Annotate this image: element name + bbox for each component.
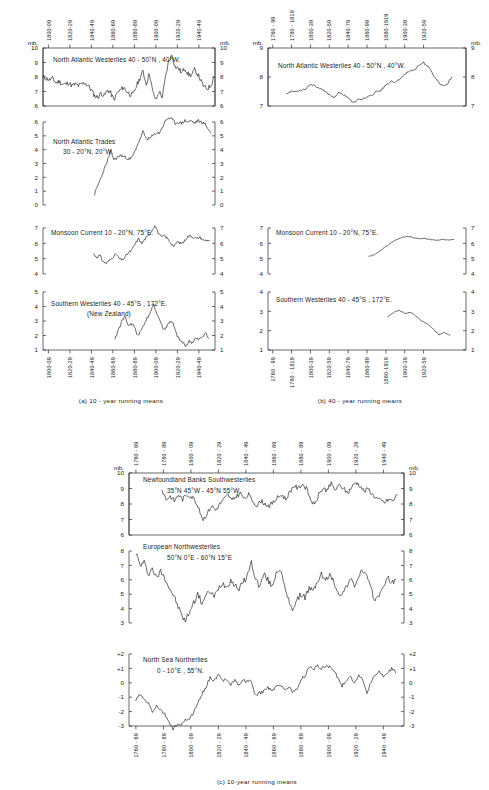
panel-title: Southern Westerlies 40 - 45°S , 172°E. bbox=[276, 296, 392, 303]
data-curve-c2 bbox=[136, 554, 396, 622]
axis-unit-label: mb. bbox=[28, 39, 39, 46]
y-tick-label: 4 bbox=[260, 270, 264, 277]
panel-title: 50°N 0°E - 60°N 15°E bbox=[167, 554, 232, 561]
x-tick-label: 1920 - 29 bbox=[353, 733, 359, 758]
y-tick-label: 0 bbox=[35, 201, 39, 208]
x-tick-label: 1860-99 bbox=[364, 357, 370, 378]
x-tick-label: 1940-49 bbox=[196, 357, 202, 378]
y-tick-label: 1 bbox=[220, 187, 224, 194]
y-tick-label: 7 bbox=[260, 102, 264, 109]
x-tick-label: 1920-59 bbox=[421, 357, 427, 378]
y-tick-label: 3 bbox=[220, 317, 224, 324]
x-tick-label: 1760 - 99 bbox=[270, 357, 276, 382]
axis-unit-label: mb. bbox=[220, 39, 231, 46]
data-curve-b2 bbox=[369, 237, 454, 257]
x-tick-label: 1920-29 bbox=[175, 357, 181, 378]
y-tick-label: 7 bbox=[121, 516, 125, 523]
y-tick-label: 6 bbox=[121, 576, 125, 583]
x-tick-label: 1780 - 89 bbox=[161, 441, 167, 466]
x-tick-label: 1940-49 bbox=[196, 20, 202, 41]
x-tick-label: 1860 - 69 bbox=[271, 441, 277, 466]
y-tick-label: 4 bbox=[220, 270, 224, 277]
y-tick-label: 6 bbox=[220, 118, 224, 125]
x-tick-label: 1780 - 1819 bbox=[289, 10, 295, 41]
y-tick-label: 2 bbox=[220, 332, 224, 339]
y-tick-label: 1 bbox=[220, 346, 224, 353]
y-tick-label: 3 bbox=[409, 619, 413, 626]
y-tick-label: 3 bbox=[121, 619, 125, 626]
x-tick-label: 1840 - 49 bbox=[243, 733, 249, 758]
y-tick-label: 7 bbox=[471, 102, 475, 109]
y-tick-label: 8 bbox=[35, 73, 39, 80]
y-tick-label: 7 bbox=[260, 224, 264, 231]
x-tick-label: 1780 - 1819 bbox=[289, 357, 295, 388]
x-tick-label: 1880-1919 bbox=[383, 357, 389, 385]
panel-title: 30 - 20°N, 20°W. bbox=[63, 148, 113, 155]
panel-title: North Atlantic Westerlies 40 - 50°N , 40… bbox=[278, 62, 405, 69]
y-tick-label: 0 bbox=[409, 679, 413, 686]
y-tick-label: 1 bbox=[260, 346, 264, 353]
figure-root: 678910mb.678910mb.1800-091820-291840-491… bbox=[0, 0, 489, 790]
panel-title: 0 - 10°E , 55°N. bbox=[157, 667, 204, 674]
y-tick-label: 5 bbox=[409, 590, 413, 597]
x-tick-label: 1900 - 09 bbox=[326, 733, 332, 758]
x-tick-label: 1760 - 69 bbox=[133, 441, 139, 466]
x-tick-label: 1800 - 09 bbox=[188, 441, 194, 466]
y-tick-label: 6 bbox=[409, 576, 413, 583]
x-tick-label: 1860-69 bbox=[110, 357, 116, 378]
y-tick-label: 7 bbox=[121, 562, 125, 569]
y-tick-label: 1 bbox=[35, 187, 39, 194]
y-tick-label: 3 bbox=[471, 308, 475, 315]
y-tick-label: 5 bbox=[220, 255, 224, 262]
x-tick-label: 1900-39 bbox=[402, 357, 408, 378]
axis-unit-label: mb. bbox=[114, 464, 125, 471]
x-tick-label: 1760 - 69 bbox=[133, 733, 139, 758]
y-tick-label: 6 bbox=[35, 102, 39, 109]
panel-title: North Atlantic Trades bbox=[53, 138, 115, 145]
panel-title: North Atlantic Westerlies 40 - 50°N , 40… bbox=[53, 56, 180, 63]
y-tick-label: 7 bbox=[35, 88, 39, 95]
y-tick-label: 7 bbox=[220, 224, 224, 231]
x-tick-label: 1800 - 09 bbox=[188, 733, 194, 758]
panel-title: Monsoon Current 10 - 20°N, 75°E. bbox=[276, 229, 378, 236]
y-tick-label: 6 bbox=[121, 531, 125, 538]
x-tick-label: 1860-99 bbox=[364, 20, 370, 41]
y-tick-label: 8 bbox=[409, 547, 413, 554]
x-tick-label: 1820 - 29 bbox=[216, 441, 222, 466]
y-tick-label: 6 bbox=[471, 240, 475, 247]
y-tick-label: -3 bbox=[118, 722, 124, 729]
x-tick-label: 1880-1919 bbox=[383, 13, 389, 41]
y-tick-label: 5 bbox=[471, 255, 475, 262]
y-tick-label: 5 bbox=[35, 132, 39, 139]
x-tick-label: 1880 - 89 bbox=[298, 441, 304, 466]
x-tick-label: 1940 - 49 bbox=[381, 733, 387, 758]
y-tick-label: 5 bbox=[260, 255, 264, 262]
y-tick-label: 9 bbox=[35, 59, 39, 66]
y-tick-label: 4 bbox=[220, 146, 224, 153]
y-tick-label: 3 bbox=[35, 317, 39, 324]
y-tick-label: 5 bbox=[220, 288, 224, 295]
x-tick-label: 1840-79 bbox=[345, 20, 351, 41]
x-tick-label: 1780 - 89 bbox=[161, 733, 167, 758]
x-tick-label: 1800-39 bbox=[308, 20, 314, 41]
x-tick-label: 1880-89 bbox=[132, 357, 138, 378]
y-tick-label: 4 bbox=[35, 146, 39, 153]
panel-title: Newfoundland Banks Southwesterlies bbox=[143, 476, 255, 483]
x-tick-label: 1820-59 bbox=[326, 20, 332, 41]
y-tick-label: 4 bbox=[121, 605, 125, 612]
axis-unit-label: mb. bbox=[253, 39, 264, 46]
x-tick-label: 1820-29 bbox=[67, 357, 73, 378]
y-tick-label: -1 bbox=[409, 693, 415, 700]
axis-unit-label: mb. bbox=[471, 39, 482, 46]
y-tick-label: 4 bbox=[409, 605, 413, 612]
y-tick-label: 7 bbox=[220, 88, 224, 95]
x-tick-label: 1760 - 99 bbox=[270, 16, 276, 41]
y-tick-label: 3 bbox=[260, 308, 264, 315]
x-tick-label: 1840-49 bbox=[89, 357, 95, 378]
y-tick-label: 5 bbox=[220, 132, 224, 139]
y-tick-label: 4 bbox=[35, 303, 39, 310]
panel-title: Monsoon Current 10 - 20°N, 75°E. bbox=[51, 229, 153, 236]
y-tick-label: 2 bbox=[260, 327, 264, 334]
y-tick-label: 8 bbox=[471, 73, 475, 80]
data-curve-a2 bbox=[95, 118, 211, 195]
